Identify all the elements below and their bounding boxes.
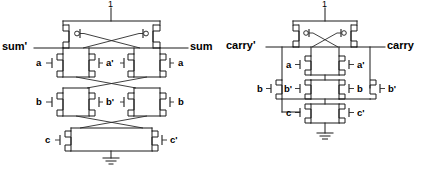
carry-b-left-label: b' <box>284 84 292 94</box>
b-to-c-cross-2 <box>80 116 147 128</box>
carry-c-left-channel <box>305 104 311 123</box>
pmos-right-gate-bubble <box>144 31 149 36</box>
c-right-label: c' <box>170 135 178 145</box>
b-far-right-label: b <box>178 97 184 107</box>
carry-b-right-label: b <box>357 84 363 94</box>
carry-b-mid-right-channel <box>339 80 345 99</box>
carry-b-mid-left-channel <box>305 80 311 99</box>
carry-a-left-label: a <box>286 60 291 70</box>
b-mid-label: b' <box>106 97 114 107</box>
carry-c-right-label: c' <box>357 108 365 118</box>
pmos-left-gate-bubble <box>75 31 80 36</box>
c-right-channel <box>152 131 158 151</box>
carry-a-right-channel <box>339 56 345 75</box>
carry-c-right-channel <box>339 104 345 123</box>
carry-bar-label: carry' <box>226 40 256 51</box>
pmos-left-channel <box>63 25 69 48</box>
a-mid-right-channel <box>128 54 134 77</box>
b-far-right-channel <box>160 93 166 116</box>
sum-label: sum <box>190 41 213 52</box>
b-far-left-channel <box>57 93 63 116</box>
carry-c-left-label: c <box>286 108 291 118</box>
b-mid-left-channel <box>89 93 95 116</box>
carry-pmos-cross-2 <box>312 33 337 47</box>
carry-b-far-right-channel <box>370 80 376 99</box>
b-far-left-label: b <box>36 97 42 107</box>
carry-b-far-left-label: b <box>257 84 263 94</box>
a-mid-label: a' <box>106 58 114 68</box>
carry-pmos-right-channel <box>351 25 357 47</box>
carry-a-right-label: a' <box>357 60 365 70</box>
a-far-left-label: a <box>36 58 41 68</box>
b-to-c-cross-1 <box>76 116 143 128</box>
carry-pmos-left-channel <box>293 25 299 47</box>
b-mid-right-channel <box>128 93 134 116</box>
carry-pmos-cross-1 <box>313 33 338 47</box>
carry-label: carry <box>387 40 414 51</box>
carry-b-far-right-label: b' <box>388 84 396 94</box>
vdd-label-right: 1 <box>322 0 327 9</box>
c-left-label: c <box>45 135 50 145</box>
carry-a-left-channel <box>305 56 311 75</box>
a-far-left-channel <box>57 54 63 77</box>
vdd-label-left: 1 <box>108 0 113 9</box>
a-to-b-cross-2 <box>87 77 147 88</box>
a-to-b-cross-1 <box>76 77 136 88</box>
c-left-channel <box>65 131 71 151</box>
a-mid-left-channel <box>89 54 95 77</box>
carry-b-far-left-channel <box>276 80 282 99</box>
carry-pmos-right-gate-bubble <box>342 31 347 36</box>
carry-circuit-group <box>266 8 385 139</box>
pmos-right-channel <box>153 25 160 48</box>
a-far-right-label: a <box>178 58 183 68</box>
a-far-right-channel <box>160 54 166 77</box>
sum-bar-label: sum' <box>2 41 27 52</box>
carry-pmos-left-gate-bubble <box>304 31 309 36</box>
sum-circuit-group <box>34 8 188 164</box>
cmos-full-adder-figure: 1 sum' sum a a' a b b' b c c' 1 carry' c… <box>0 0 423 169</box>
